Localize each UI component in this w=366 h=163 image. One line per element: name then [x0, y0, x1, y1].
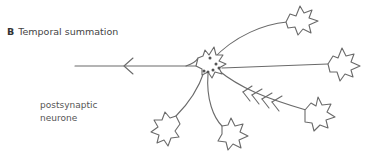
axon-right: [222, 64, 328, 68]
neurone-lower-right: [305, 97, 335, 131]
synaptic-knob: [203, 70, 206, 73]
synaptic-knob: [207, 71, 210, 74]
axon-lower-right: [218, 70, 306, 110]
axon-bottom-left: [176, 72, 204, 116]
synaptic-knob: [218, 67, 221, 70]
axon-top-right: [212, 22, 287, 60]
presynaptic-neurones: [151, 6, 360, 150]
neurone-top-right: [286, 6, 318, 35]
synaptic-knob: [209, 57, 212, 60]
axon-bottom: [208, 74, 222, 126]
synaptic-knob: [212, 69, 215, 72]
neurone-bottom: [218, 118, 248, 150]
postsynaptic-axon: [75, 58, 198, 74]
neurone-right: [328, 48, 360, 81]
synaptic-knob: [215, 63, 218, 66]
neuron-diagram: [0, 0, 366, 163]
neurone-bottom-left: [151, 112, 180, 146]
